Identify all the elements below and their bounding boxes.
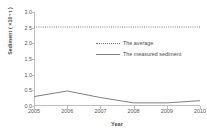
x-axis-tick-labels: 200520062007200820092010 <box>34 108 200 118</box>
series-line-the-measured-sediment <box>34 91 200 103</box>
x-tick-label: 2009 <box>152 108 182 114</box>
y-tick-mark <box>32 90 35 91</box>
legend-item-the-measured-sediment: The measured sediment <box>96 48 201 59</box>
x-tick-label: 2008 <box>119 108 149 114</box>
chart-legend: The average The measured sediment <box>96 37 201 59</box>
y-tick-mark <box>32 75 35 76</box>
y-tick-label: 3.0 <box>18 9 32 15</box>
y-axis-title: Sediment ( ×10⁴ t ) <box>7 0 13 71</box>
x-axis-title: Year <box>34 121 200 127</box>
x-tick-label: 2007 <box>85 108 115 114</box>
sediment-line-chart: Sediment ( ×10⁴ t ) 0.00.51.01.52.02.53.… <box>0 0 207 138</box>
legend-label: The average <box>123 40 153 46</box>
x-tick-label: 2010 <box>185 108 207 114</box>
y-tick-label: 1.0 <box>18 72 32 78</box>
legend-label: The measured sediment <box>123 51 181 57</box>
plot-area <box>34 12 200 106</box>
legend-solid-line-icon <box>96 51 120 57</box>
y-tick-mark <box>32 43 35 44</box>
y-tick-label: 2.5 <box>18 25 32 31</box>
legend-item-the-average: The average <box>96 37 201 48</box>
y-tick-mark <box>32 59 35 60</box>
x-tick-label: 2005 <box>19 108 49 114</box>
y-tick-label: 0.5 <box>18 87 32 93</box>
y-axis-tick-labels: 0.00.51.01.52.02.53.0 <box>18 12 32 106</box>
y-tick-mark <box>32 28 35 29</box>
y-tick-mark <box>32 12 35 13</box>
y-tick-label: 1.5 <box>18 56 32 62</box>
legend-dotted-line-icon <box>96 40 120 46</box>
series-canvas <box>34 12 200 106</box>
y-tick-label: 2.0 <box>18 40 32 46</box>
x-tick-label: 2006 <box>52 108 82 114</box>
